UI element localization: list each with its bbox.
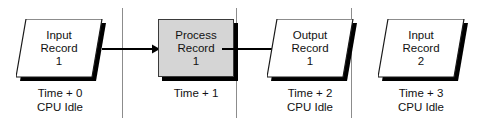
- process-record-1-caption-line-1: Time + 1: [144, 86, 248, 100]
- process-record-1-caption: Time + 1: [144, 86, 248, 100]
- output-record-1-caption-line-2: CPU Idle: [258, 100, 362, 114]
- output-record-1-outline: [267, 19, 361, 85]
- input-record-2-caption-line-1: Time + 3: [369, 86, 473, 100]
- input-record-1-caption-line-2: CPU Idle: [8, 100, 112, 114]
- input-record-1-caption: Time + 0 CPU Idle: [8, 86, 112, 114]
- input-record-2-caption: Time + 3 CPU Idle: [369, 86, 473, 114]
- input-record-1-node: Input Record 1: [16, 19, 102, 77]
- arrow-input1-to-process1: [102, 43, 160, 55]
- phase-divider-1: [122, 8, 123, 118]
- output-record-1-caption-line-1: Time + 2: [258, 86, 362, 100]
- input-record-2-outline: [378, 19, 472, 85]
- input-record-1-outline: [16, 19, 110, 85]
- output-record-1-caption: Time + 2 CPU Idle: [258, 86, 362, 114]
- pipeline-timeline-diagram: Input Record 1 Time + 0 CPU Idle Process…: [0, 0, 477, 127]
- input-record-2-node: Input Record 2: [378, 19, 464, 77]
- input-record-1-caption-line-1: Time + 0: [8, 86, 112, 100]
- input-record-2-caption-line-2: CPU Idle: [369, 100, 473, 114]
- output-record-1-node: Output Record 1: [267, 19, 353, 77]
